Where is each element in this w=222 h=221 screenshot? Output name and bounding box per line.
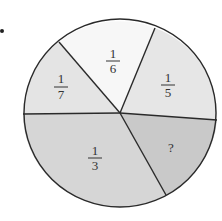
svg-text:1: 1	[165, 70, 172, 85]
svg-text:1: 1	[92, 143, 99, 158]
svg-text:1: 1	[58, 71, 65, 86]
svg-text:?: ?	[168, 140, 174, 155]
svg-text:7: 7	[58, 87, 65, 102]
svg-text:5: 5	[165, 85, 172, 100]
pie-chart: 1 6 1 5 ? 1 3 1 7	[0, 0, 222, 221]
label-unknown: ?	[168, 140, 174, 155]
svg-text:1: 1	[110, 46, 117, 61]
svg-text:6: 6	[110, 61, 117, 76]
svg-text:3: 3	[92, 158, 99, 173]
